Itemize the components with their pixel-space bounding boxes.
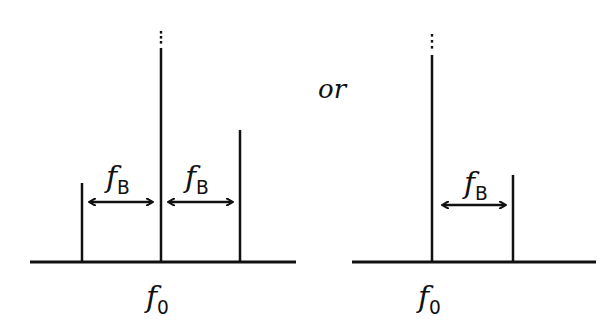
left-panel xyxy=(30,31,296,262)
label-subscript: 0 xyxy=(157,297,169,318)
label-subscript: B xyxy=(196,177,209,198)
right-spacing-label: fB xyxy=(464,168,488,204)
spectrum-diagram xyxy=(0,0,615,334)
right-carrier-continuation-dots xyxy=(431,34,433,49)
right-center-frequency-label: f0 xyxy=(418,282,441,318)
left-carrier-continuation-dots xyxy=(160,31,162,44)
right-panel xyxy=(352,34,596,262)
or-connector-text: or xyxy=(318,76,346,102)
label-symbol: f xyxy=(185,159,196,194)
left-spacing-label-2: fB xyxy=(185,162,209,198)
left-center-frequency-label: f0 xyxy=(146,282,169,318)
label-symbol: f xyxy=(106,159,117,194)
label-symbol: f xyxy=(464,165,475,200)
label-subscript: B xyxy=(475,183,488,204)
label-subscript: 0 xyxy=(429,297,441,318)
label-symbol: f xyxy=(146,279,157,314)
label-subscript: B xyxy=(117,177,130,198)
label-symbol: f xyxy=(418,279,429,314)
left-spacing-label-1: fB xyxy=(106,162,130,198)
